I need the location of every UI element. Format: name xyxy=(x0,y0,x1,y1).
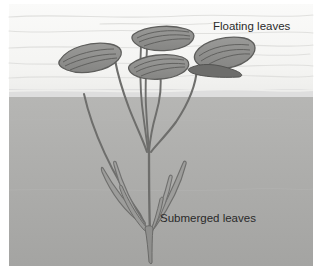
water-background xyxy=(9,97,313,266)
floating-leaves-label: Floating leaves xyxy=(213,20,291,32)
submerged-leaves-label: Submerged leaves xyxy=(160,212,256,224)
water-region xyxy=(9,97,313,266)
floating-leaf-upper-center xyxy=(132,26,194,50)
aquatic-plant-figure: Floating leaves Submerged leaves xyxy=(0,0,326,280)
figure-canvas: Floating leaves Submerged leaves xyxy=(0,0,326,280)
